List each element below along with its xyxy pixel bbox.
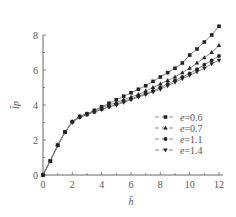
plot-area: 02468101202468h̄l̄pe=0.6e=0.7e=1.1e=1.4 [0, 0, 236, 217]
y-tick-label: 6 [33, 65, 38, 76]
data-point-marker [173, 75, 177, 79]
x-axis-label: h̄ [129, 196, 134, 207]
legend-item: e=1.4 [155, 145, 203, 156]
x-tick-label: 2 [70, 179, 75, 190]
data-point-marker [202, 63, 206, 67]
data-point-marker [217, 43, 221, 47]
data-point-marker [173, 66, 177, 70]
data-point-marker [210, 33, 214, 37]
x-tick-label: 0 [41, 179, 46, 190]
data-point-marker [188, 53, 192, 57]
legend-label: e=0.6 [180, 112, 203, 123]
data-point-marker [129, 91, 133, 95]
line-chart: 02468101202468h̄l̄pe=0.6e=0.7e=1.1e=1.4 [0, 0, 236, 217]
data-point-marker [137, 87, 141, 91]
data-point-marker [195, 61, 199, 65]
legend-label: e=1.1 [180, 134, 203, 145]
data-point-marker [187, 66, 191, 70]
data-point-marker [144, 84, 148, 88]
legend-item: e=1.1 [155, 134, 203, 145]
data-point-marker [180, 70, 184, 74]
x-tick-label: 6 [129, 179, 134, 190]
data-point-marker [217, 24, 221, 28]
data-point-marker [181, 61, 185, 65]
y-tick-label: 2 [33, 135, 38, 146]
series-line [43, 46, 219, 176]
legend: e=0.6e=0.7e=1.1e=1.4 [155, 112, 203, 156]
data-point-marker [203, 40, 207, 44]
y-axis-label: l̄p [10, 101, 21, 109]
x-tick-label: 4 [99, 179, 104, 190]
data-point-marker [195, 47, 199, 51]
y-tick-label: 8 [33, 30, 38, 41]
x-tick-label: 12 [214, 179, 224, 190]
series-e-0-7 [41, 43, 221, 177]
data-point-marker [159, 75, 163, 79]
legend-label: e=1.4 [180, 145, 203, 156]
data-point-marker [202, 55, 206, 59]
data-point-marker [151, 80, 155, 84]
data-point-marker [217, 54, 221, 58]
y-tick-label: 4 [33, 100, 38, 111]
data-point-marker [209, 62, 213, 66]
data-point-marker [166, 71, 170, 75]
legend-marker [164, 137, 168, 141]
x-tick-label: 8 [158, 179, 163, 190]
legend-item: e=0.7 [155, 123, 203, 134]
y-tick-label: 0 [33, 170, 38, 181]
legend-marker [164, 115, 168, 119]
x-tick-label: 10 [185, 179, 195, 190]
legend-item: e=0.6 [155, 112, 203, 123]
data-point-marker [210, 58, 214, 62]
legend-label: e=0.7 [180, 123, 203, 134]
